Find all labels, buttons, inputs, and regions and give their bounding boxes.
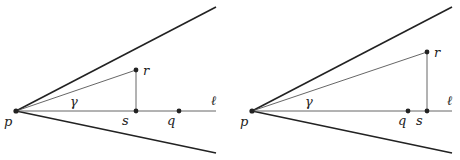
label-gamma: γ [70, 94, 78, 109]
cone-upper-boundary [16, 7, 216, 111]
label-r: r [143, 63, 150, 78]
point-r [425, 50, 430, 55]
cone-lower-boundary [16, 111, 216, 153]
label-q: q [398, 113, 406, 128]
figure-right: p r s q γ ℓ [240, 7, 453, 153]
label-r: r [434, 45, 441, 60]
point-q [177, 109, 182, 114]
point-s [134, 109, 139, 114]
label-p: p [4, 114, 13, 129]
label-ell: ℓ [447, 93, 453, 108]
point-r [134, 68, 139, 73]
label-s: s [122, 113, 129, 128]
label-ell: ℓ [211, 93, 217, 108]
figure-left: p r s q γ ℓ [4, 7, 217, 153]
label-s: s [416, 113, 423, 128]
label-q: q [167, 113, 175, 128]
label-gamma: γ [305, 94, 313, 109]
label-p: p [240, 114, 249, 129]
segment-pr [252, 52, 427, 111]
cone-upper-boundary [252, 7, 452, 111]
point-p [13, 108, 18, 113]
point-s [425, 109, 430, 114]
diagram-canvas: p r s q γ ℓ p r s q γ ℓ [0, 0, 460, 160]
point-p [249, 108, 254, 113]
